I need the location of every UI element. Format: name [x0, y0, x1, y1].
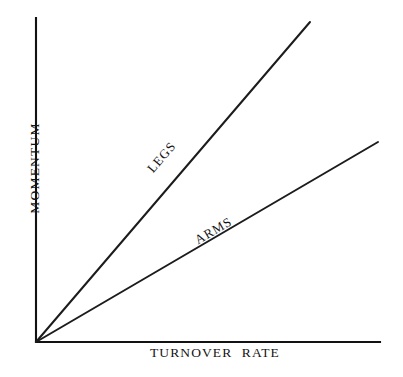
chart-figure: TURNOVER RATE MOMENTUM LEGS ARMS [0, 0, 403, 377]
plot-area [0, 0, 403, 377]
x-axis-label: TURNOVER RATE [150, 345, 280, 361]
series-line-legs [36, 22, 310, 342]
y-axis-label: MOMENTUM [27, 120, 43, 216]
